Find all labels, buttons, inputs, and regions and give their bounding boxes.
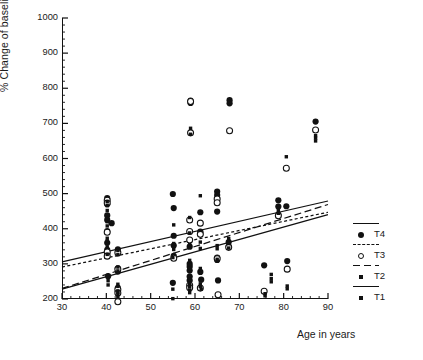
x-tick-label: 30 (49, 303, 75, 312)
legend-item-t2[interactable]: T2 (352, 263, 418, 284)
legend-label: T2 (374, 270, 385, 281)
chart-legend: T4T3T2T1 (352, 221, 418, 305)
y-tick-label: 200 (28, 294, 58, 303)
filled-circle-icon (358, 232, 364, 238)
x-tick-label: 40 (93, 303, 119, 312)
small-square-icon (359, 296, 362, 299)
small-square-icon (359, 275, 362, 278)
legend-item-t3[interactable]: T3 (352, 242, 418, 263)
x-tick-label: 80 (271, 303, 297, 312)
y-tick-label: 400 (28, 224, 58, 233)
x-axis-title: Age in years (297, 328, 355, 340)
y-axis-title: % Change of baseline values (0, 0, 10, 92)
chart-figure: % Change of baseline values 200300400500… (0, 0, 423, 360)
legend-line-swatch (353, 286, 379, 287)
x-tick-label: 50 (138, 303, 164, 312)
y-tick-label: 800 (28, 83, 58, 92)
legend-label: T3 (374, 249, 385, 260)
legend-marker-icon (358, 295, 363, 300)
y-tick-label: 700 (28, 118, 58, 127)
legend-marker-icon (358, 232, 364, 238)
legend-marker-icon (358, 253, 364, 259)
legend-marker-icon (358, 274, 363, 279)
y-tick-label: 300 (28, 259, 58, 268)
legend-item-t4[interactable]: T4 (352, 221, 418, 242)
x-tick-label: 90 (315, 303, 341, 312)
y-tick-label: 600 (28, 154, 58, 163)
y-tick-label: 900 (28, 48, 58, 57)
legend-line-swatch (353, 223, 379, 224)
plot-area (62, 18, 328, 299)
y-tick-label: 500 (28, 189, 58, 198)
x-tick-label: 60 (182, 303, 208, 312)
legend-item-t1[interactable]: T1 (352, 284, 418, 305)
legend-line-swatch (353, 265, 379, 266)
x-tick-label: 70 (226, 303, 252, 312)
open-circle-icon (358, 253, 364, 259)
legend-label: T4 (374, 228, 385, 239)
legend-line-swatch (353, 244, 379, 245)
legend-label: T1 (374, 291, 385, 302)
y-tick-label: 1000 (28, 13, 58, 22)
